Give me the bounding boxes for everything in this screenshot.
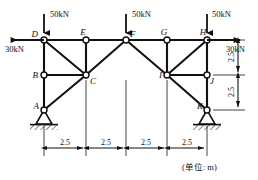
load-labels: 50kN 50kN 50kN 30kN 30kN (5, 9, 245, 54)
vdim-label-1: 2.5 (227, 52, 236, 62)
node-label-B: B (33, 70, 39, 80)
node-label-H: H (199, 27, 207, 37)
load-label-F: 50kN (132, 9, 151, 19)
hdim-label-1: 2.5 (60, 138, 70, 147)
member-A-C (44, 75, 86, 110)
node-label-G: G (161, 27, 168, 37)
joint-K (204, 107, 210, 113)
joint-C (83, 72, 89, 78)
node-label-A: A (33, 101, 40, 111)
joint-A (41, 107, 47, 113)
node-label-J: J (210, 76, 215, 86)
node-label-F: F (129, 29, 136, 39)
vertical-dimension-labels: 2.5 2.5 (227, 52, 236, 97)
truss-diagram: A B C D E F G H I J K 50kN 50kN 50kN 30k… (0, 0, 258, 180)
load-label-left-30: 30kN (5, 44, 24, 54)
figure-canvas: A B C D E F G H I J K 50kN 50kN 50kN 30k… (0, 0, 258, 180)
joint-E (83, 37, 89, 43)
hdim-label-2: 2.5 (101, 138, 111, 147)
supports (30, 110, 221, 130)
joint-B (41, 72, 47, 78)
member-C-F (86, 40, 126, 75)
member-H-I (167, 40, 207, 75)
joint-I (164, 72, 170, 78)
member-D-C (44, 40, 86, 75)
node-label-K: K (196, 101, 204, 111)
hdim-label-3: 2.5 (141, 138, 151, 147)
load-label-D: 50kN (50, 9, 69, 19)
joint-F (123, 37, 129, 43)
node-label-E: E (79, 27, 86, 37)
node-label-D: D (31, 29, 39, 39)
node-label-C: C (90, 76, 97, 86)
unit-note: (单位: m) (182, 162, 217, 172)
truss-members (44, 40, 207, 110)
joint-G (164, 37, 170, 43)
hdim-label-4: 2.5 (182, 138, 192, 147)
vdim-label-2: 2.5 (227, 87, 236, 97)
load-label-H: 50kN (212, 9, 231, 19)
